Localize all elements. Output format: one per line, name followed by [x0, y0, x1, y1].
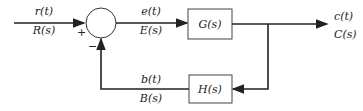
plus-sign: + — [77, 26, 86, 39]
minus-sign: − — [88, 40, 97, 53]
feedback-takeoff-path — [233, 24, 268, 89]
feedback-laplace-label: B(s) — [139, 92, 162, 105]
summing-junction — [86, 8, 116, 38]
error-laplace-label: E(s) — [139, 24, 162, 37]
input-laplace-label: R(s) — [32, 24, 56, 37]
input-time-label: r(t) — [35, 5, 53, 18]
output-time-label: c(t) — [334, 10, 353, 23]
block-diagram: r(t) R(s) + − e(t) E(s) G(s) c(t) C(s) H… — [0, 0, 363, 111]
output-laplace-label: C(s) — [334, 28, 357, 41]
feedback-time-label: b(t) — [141, 73, 161, 86]
error-time-label: e(t) — [141, 5, 161, 18]
forward-block-label: G(s) — [198, 18, 221, 31]
feedback-block-label: H(s) — [197, 83, 222, 96]
